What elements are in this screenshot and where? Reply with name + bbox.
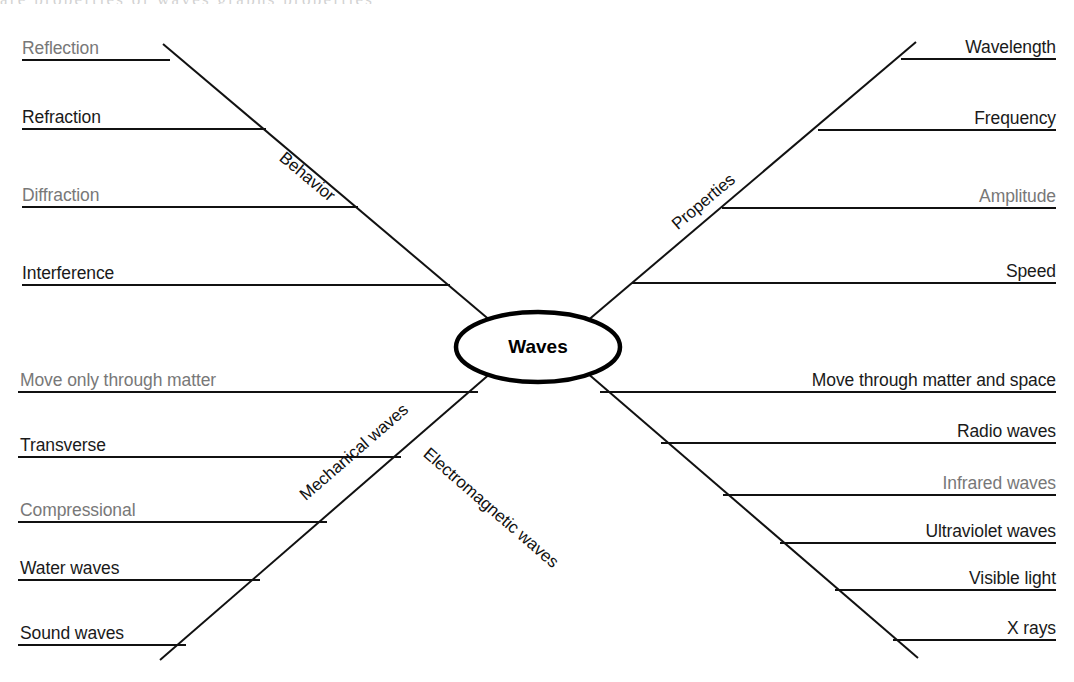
node-label-visible-light: Visible light — [969, 568, 1056, 588]
branch-line-mechanical-waves — [160, 372, 492, 660]
node-label-ultraviolet-waves: Ultraviolet waves — [925, 521, 1056, 541]
node-label-infrared-waves: Infrared waves — [943, 473, 1056, 493]
node-label-move-through-matter-and-space: Move through matter and space — [812, 370, 1056, 390]
node-label-speed: Speed — [1006, 261, 1056, 281]
concept-map-canvas: are properties of waves graphs propertie… — [0, 0, 1074, 682]
node-label-amplitude: Amplitude — [979, 186, 1056, 206]
node-label-water-waves: Water waves — [20, 558, 119, 578]
node-label-interference: Interference — [22, 263, 114, 283]
node-label-reflection: Reflection — [22, 38, 99, 58]
node-label-refraction: Refraction — [22, 107, 101, 127]
node-label-x-rays: X rays — [1007, 618, 1056, 638]
node-label-transverse: Transverse — [20, 435, 106, 455]
node-label-frequency: Frequency — [974, 108, 1056, 128]
node-label-compressional: Compressional — [20, 500, 135, 520]
node-label-sound-waves: Sound waves — [20, 623, 124, 643]
node-label-wavelength: Wavelength — [965, 37, 1056, 57]
node-label-radio-waves: Radio waves — [957, 421, 1056, 441]
node-label-diffraction: Diffraction — [22, 185, 99, 205]
center-node-label: Waves — [458, 336, 618, 358]
node-label-move-only-through-matter: Move only through matter — [20, 370, 216, 390]
branch-line-electromagnetic-waves — [586, 372, 918, 658]
branch-line-properties — [586, 42, 916, 322]
